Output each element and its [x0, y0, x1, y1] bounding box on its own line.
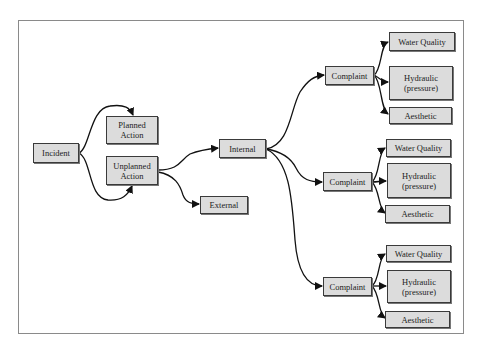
node-water-quality-1: Water Quality: [389, 32, 455, 51]
node-aesthetic-1: Aesthetic: [389, 107, 452, 124]
node-water-quality-2: Water Quality: [386, 139, 451, 157]
edge-unplanned-external: [158, 172, 199, 204]
node-incident: Incident: [33, 143, 79, 163]
node-water-quality-3: Water Quality: [386, 245, 451, 262]
node-complaint-2: Complaint: [323, 172, 372, 191]
node-external: External: [200, 196, 248, 214]
node-internal: Internal: [219, 139, 266, 158]
edge-internal-complaint2: [266, 149, 322, 182]
edge-internal-complaint1: [266, 75, 324, 149]
node-unplanned-action: Unplanned Action: [106, 156, 158, 185]
node-complaint-3: Complaint: [323, 277, 372, 296]
node-hydraulic-1: Hydraulic (pressure): [389, 66, 453, 100]
node-complaint-1: Complaint: [325, 66, 374, 85]
node-aesthetic-2: Aesthetic: [385, 205, 450, 223]
node-hydraulic-3: Hydraulic (pressure): [387, 270, 451, 303]
node-aesthetic-3: Aesthetic: [385, 311, 450, 328]
edge-internal-complaint3: [266, 149, 322, 286]
edge-unplanned-internal: [158, 148, 218, 170]
node-hydraulic-2: Hydraulic (pressure): [387, 163, 451, 198]
node-planned-action: Planned Action: [106, 116, 158, 144]
